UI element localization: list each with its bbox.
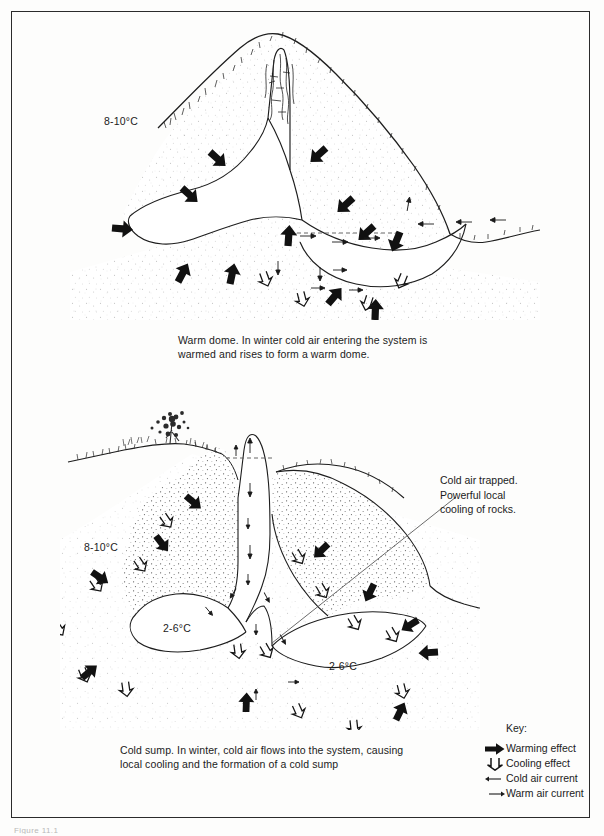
- temperature-label-outer-warm-dome: 8-10°C: [104, 115, 138, 127]
- annotation-line-1: Cold air trapped.: [440, 473, 580, 488]
- key-legend: Key: Warming effect Cooling effect: [484, 722, 604, 801]
- warm-dome-diagram: [70, 20, 540, 320]
- key-row-cold-air-current: Cold air current: [484, 771, 604, 786]
- annotation-cold-air-trapped: Cold air trapped. Powerful local cooling…: [440, 473, 580, 517]
- key-label-cooling-effect: Cooling effect: [506, 756, 570, 771]
- bush-vegetation: [123, 411, 216, 452]
- key-title: Key:: [506, 722, 604, 734]
- key-label-cold-air-current: Cold air current: [506, 771, 578, 786]
- temperature-label-chamber-right: 2-6°C: [329, 660, 357, 672]
- key-row-warming-effect: Warming effect: [484, 741, 604, 756]
- page-canvas: 8-10°C Warm dome. In winter cold air ent…: [0, 0, 604, 836]
- rock-mass-stipple: [70, 20, 540, 320]
- hollow-down-arrow-icon: [484, 756, 506, 771]
- thin-left-arrow-icon: [484, 771, 506, 786]
- key-row-cooling-effect: Cooling effect: [484, 756, 604, 771]
- thick-right-arrow-icon: [484, 741, 506, 756]
- temperature-label-outer-cold-sump: 8-10°C: [84, 541, 118, 553]
- cold-sump-diagram: [60, 400, 480, 730]
- temperature-label-chamber-left: 2-6°C: [163, 622, 191, 634]
- caption-warm-dome: Warm dome. In winter cold air entering t…: [178, 333, 438, 361]
- annotation-line-2: Powerful local: [440, 488, 580, 503]
- thin-right-arrow-icon: [484, 786, 506, 801]
- annotation-line-3: cooling of rocks.: [440, 502, 580, 517]
- key-row-warm-air-current: Warm air current: [484, 786, 604, 801]
- cropped-figure-caption: Figure 11.1: [14, 826, 58, 834]
- key-label-warming-effect: Warming effect: [506, 741, 576, 756]
- key-label-warm-air-current: Warm air current: [506, 786, 584, 801]
- caption-cold-sump: Cold sump. In winter, cold air flows int…: [120, 743, 420, 771]
